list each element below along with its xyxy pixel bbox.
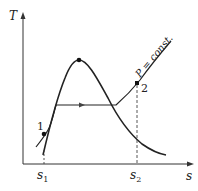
ts-diagram: T s 1 2 s1 s2 P = const. (0, 0, 198, 191)
x-axis-label: s (186, 169, 192, 183)
isobar-label: P = const. (132, 32, 174, 80)
y-axis-label: T (9, 9, 18, 23)
process-arrow-icon (79, 103, 85, 108)
x-axis-arrow-icon (187, 162, 194, 167)
saturation-dome (43, 60, 166, 155)
s1-tick-label: s1 (37, 168, 48, 184)
state-label-1: 1 (37, 120, 44, 133)
state-label-2: 2 (141, 82, 148, 95)
s2-tick-label: s2 (130, 168, 141, 184)
state-point-2 (135, 81, 139, 85)
y-axis-arrow-icon (21, 12, 26, 19)
critical-point (77, 58, 82, 63)
